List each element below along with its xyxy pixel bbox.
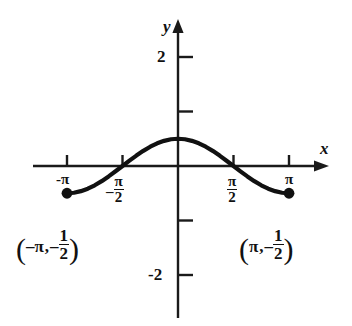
coordinate-plane-svg (0, 0, 352, 326)
fraction-pi-over-2: π2 (114, 174, 124, 206)
x-tick-label-pi-over-2: π2 (227, 174, 237, 206)
open-paren: ( (16, 234, 26, 264)
coordinate-x-value: –π (26, 237, 44, 256)
x-tick-label-neg-pi: -π (56, 172, 69, 187)
y-axis-arrowhead (172, 19, 183, 33)
x-tick-label-pi: π (285, 172, 293, 187)
minus-sign: – (265, 237, 274, 256)
minus-sign: – (50, 237, 59, 256)
close-paren: ) (69, 234, 79, 264)
open-paren: ( (239, 234, 249, 264)
fraction-numerator: π (114, 174, 124, 190)
x-axis-label: x (320, 140, 329, 157)
y-axis-label: y (163, 18, 171, 35)
fraction-denominator: 2 (227, 190, 237, 205)
fraction-pi-over-2: π2 (227, 174, 237, 206)
fraction-denominator: 2 (114, 190, 124, 205)
fraction-denominator: 2 (59, 245, 70, 262)
endpoint-dot-right (284, 188, 295, 199)
endpoint-dot-left (62, 188, 73, 199)
left-endpoint-coordinate-label: (–π,–12) (16, 227, 79, 264)
x-tick-label-neg-pi-over-2: –π2 (106, 174, 124, 206)
fraction-numerator: 1 (59, 227, 70, 245)
coordinate-x-value: π (249, 237, 258, 256)
fraction-numerator: 1 (273, 227, 284, 245)
fraction-denominator: 2 (273, 245, 284, 262)
x-axis-arrowhead (314, 161, 329, 172)
fraction-one-half: 12 (59, 227, 70, 263)
close-paren: ) (284, 234, 294, 264)
fraction-one-half: 12 (273, 227, 284, 263)
graph-figure: y x 2 -2 -π –π2 π2 π (–π,–12) (π,–12) (0, 0, 352, 326)
y-tick-label-2: 2 (157, 48, 166, 65)
fraction-numerator: π (227, 174, 237, 190)
y-tick-label-neg-2: -2 (148, 266, 162, 283)
minus-sign: – (106, 183, 114, 199)
right-endpoint-coordinate-label: (π,–12) (239, 227, 294, 264)
